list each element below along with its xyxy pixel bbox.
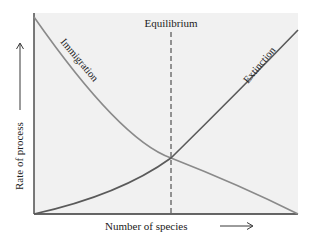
equilibrium-label: Equilibrium (144, 17, 198, 29)
x-arrow-icon (220, 223, 253, 230)
y-axis-label: Rate of process (13, 122, 25, 190)
island-biogeography-diagram: Equilibrium Immigration Extinction Numbe… (0, 0, 314, 243)
x-axis-label: Number of species (105, 220, 187, 232)
y-arrow-icon (17, 43, 24, 110)
